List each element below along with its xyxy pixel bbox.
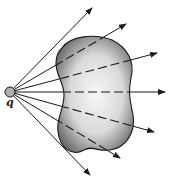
closed-surface — [56, 36, 134, 152]
charge-label: q — [6, 96, 14, 109]
diagram-canvas — [0, 0, 172, 182]
gauss-law-diagram: q — [0, 0, 172, 182]
